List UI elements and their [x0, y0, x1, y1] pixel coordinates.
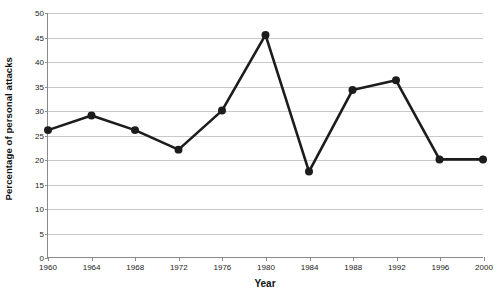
y-axis-title: Percentage of personal attacks — [0, 0, 16, 258]
x-tick-label: 1984 — [301, 263, 319, 272]
x-tick-mark — [179, 257, 180, 261]
data-point-marker: 1968: 26 — [131, 126, 139, 134]
x-tick-mark — [353, 257, 354, 261]
x-tick-mark — [310, 257, 311, 261]
data-point-marker: 1980: 45.5 — [262, 31, 270, 39]
y-tick-label: 10 — [35, 205, 44, 214]
x-tick-label: 1968 — [126, 263, 144, 272]
data-point-marker: 1976: 30 — [218, 107, 226, 115]
x-tick-mark — [484, 257, 485, 261]
data-point-marker: 1988: 34.2 — [349, 86, 357, 94]
y-tick-label: 5 — [40, 229, 44, 238]
data-point-marker: 1964: 29 — [88, 111, 96, 119]
x-tick-mark — [222, 257, 223, 261]
plot-area: 05101520253035404550 1960196419681972197… — [47, 13, 483, 258]
x-tick-mark — [48, 257, 49, 261]
x-tick-label: 2000 — [475, 263, 493, 272]
x-axis-title: Year — [47, 278, 483, 289]
y-tick-label: 15 — [35, 180, 44, 189]
x-tick-mark — [266, 257, 267, 261]
x-tick-mark — [397, 257, 398, 261]
y-tick-label: 20 — [35, 156, 44, 165]
data-series: 1960: 261964: 291968: 261972: 221976: 30… — [48, 13, 483, 257]
y-tick-label: 25 — [35, 131, 44, 140]
x-tick-mark — [92, 257, 93, 261]
x-tick-label: 1964 — [83, 263, 101, 272]
y-tick-label: 45 — [35, 33, 44, 42]
x-tick-label: 1960 — [39, 263, 57, 272]
y-axis-title-label: Percentage of personal attacks — [3, 57, 14, 200]
y-tick-label: 50 — [35, 9, 44, 18]
x-tick-mark — [135, 257, 136, 261]
y-tick-label: 0 — [40, 254, 44, 263]
data-point-marker: 1984: 17.5 — [305, 168, 313, 176]
data-point-marker: 1972: 22 — [175, 146, 183, 154]
y-tick-label: 40 — [35, 58, 44, 67]
y-tick-label: 30 — [35, 107, 44, 116]
x-tick-mark — [440, 257, 441, 261]
line-chart: Percentage of personal attacks 051015202… — [0, 0, 500, 298]
x-tick-label: 1976 — [213, 263, 231, 272]
x-tick-label: 1988 — [344, 263, 362, 272]
data-point-marker: 2000: 20 — [479, 155, 487, 163]
x-tick-label: 1996 — [431, 263, 449, 272]
y-tick-label: 35 — [35, 82, 44, 91]
series-line — [48, 35, 483, 172]
x-tick-label: 1972 — [170, 263, 188, 272]
data-point-marker: 1996: 20 — [436, 155, 444, 163]
x-tick-label: 1992 — [388, 263, 406, 272]
x-tick-label: 1980 — [257, 263, 275, 272]
top-cropped-text — [0, 0, 500, 9]
data-point-marker: 1992: 36.2 — [392, 76, 400, 84]
data-point-marker: 1960: 26 — [44, 126, 52, 134]
